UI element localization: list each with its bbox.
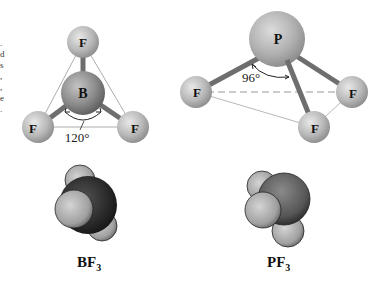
bf3-space-filling-model [55, 165, 117, 241]
fluorine-label: F [79, 35, 87, 50]
formula-main: BF [77, 254, 96, 270]
fluorine-label: F [193, 85, 201, 100]
fluorine-atom [22, 111, 54, 143]
bf3-bond-angle-label: 120° [65, 130, 90, 145]
pf3-caption: PF3 [267, 254, 290, 273]
fluorine-sphere [245, 192, 281, 228]
bf3-caption: BF3 [77, 254, 101, 273]
boron-label: B [78, 86, 87, 101]
fluorine-label: F [349, 86, 357, 101]
fluorine-label: F [131, 121, 139, 136]
phosphorus-label: P [274, 32, 283, 47]
angle-leader-line [80, 121, 84, 130]
formula-subscript: 3 [96, 262, 101, 273]
formula-subscript: 3 [285, 262, 290, 273]
fluorine-label: F [29, 121, 37, 136]
molecule-diagram: B F F F 120° P 96° F F F [0, 0, 381, 281]
bf3-ball-stick-model: B F F F 120° [22, 26, 149, 145]
pf3-bond-angle-label: 96° [242, 70, 260, 85]
formula-main: PF [267, 254, 285, 270]
pf3-space-filling-model [245, 171, 310, 247]
pf3-ball-stick-model: P 96° F F F [180, 11, 368, 143]
fluorine-sphere [55, 190, 93, 228]
fluorine-label: F [311, 121, 319, 136]
pf3-base-edge [196, 92, 314, 127]
